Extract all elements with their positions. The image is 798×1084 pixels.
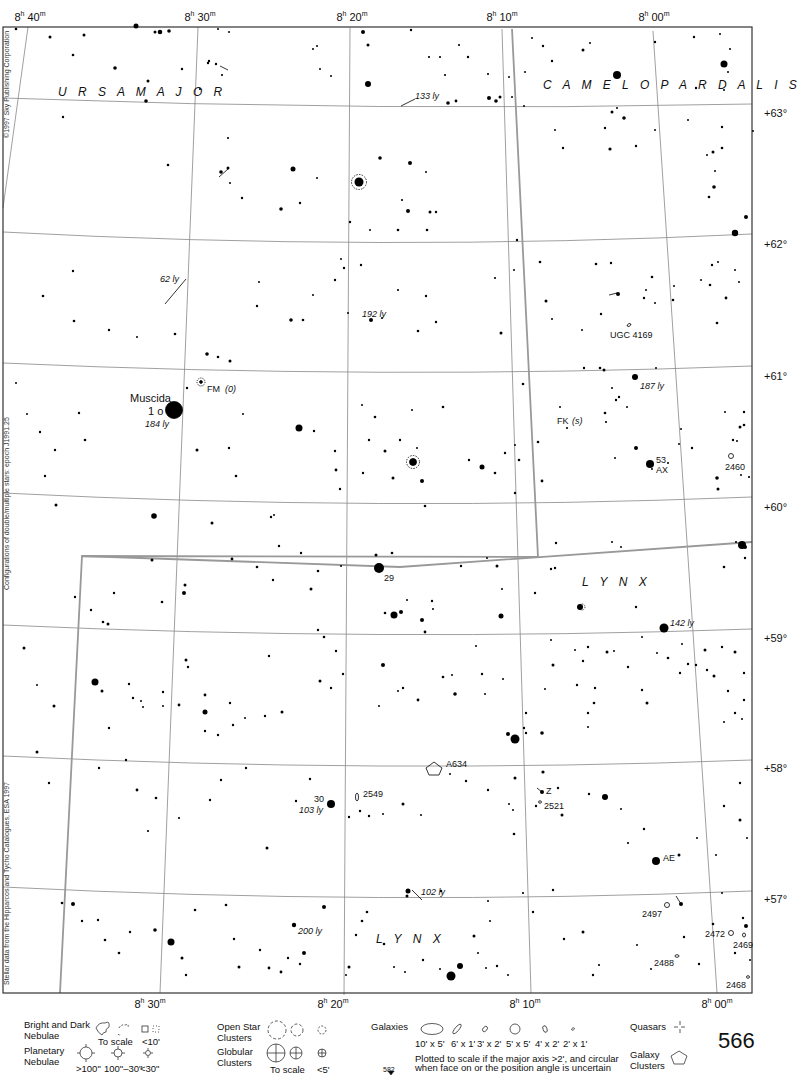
star xyxy=(709,284,712,287)
star xyxy=(654,129,656,131)
legend-planetary-size-1: >100" xyxy=(76,1063,101,1074)
star xyxy=(233,938,235,940)
star xyxy=(514,444,516,446)
star xyxy=(186,387,188,389)
star xyxy=(611,541,613,543)
star xyxy=(384,612,387,615)
star xyxy=(744,924,748,928)
star xyxy=(514,492,516,494)
legend-nebulae-title: Bright and Dark Nebulae xyxy=(24,1019,94,1041)
star xyxy=(204,730,206,732)
star xyxy=(151,559,154,562)
star xyxy=(473,935,476,938)
star xyxy=(113,66,117,70)
star xyxy=(501,588,503,590)
star xyxy=(420,814,422,816)
star xyxy=(278,545,280,547)
star xyxy=(508,803,510,805)
star xyxy=(334,450,336,452)
star xyxy=(467,56,469,58)
star xyxy=(654,41,656,43)
star xyxy=(168,939,175,946)
star xyxy=(401,199,403,201)
legend-globular-small: <5' xyxy=(317,1064,330,1075)
star xyxy=(113,592,115,594)
star xyxy=(604,412,607,415)
star xyxy=(713,675,716,678)
star xyxy=(417,330,420,333)
star xyxy=(477,952,479,954)
star xyxy=(348,966,351,969)
legend-planetary-title: Planetary Nebulae xyxy=(24,1045,74,1067)
star xyxy=(715,476,719,480)
galaxy-cluster-a634 xyxy=(426,762,442,775)
star xyxy=(309,778,311,780)
star xyxy=(740,474,742,476)
star xyxy=(496,565,499,568)
star xyxy=(507,974,509,976)
star xyxy=(446,101,450,105)
star xyxy=(83,34,86,37)
star xyxy=(78,412,80,414)
star xyxy=(209,799,211,801)
star xyxy=(714,170,716,172)
star xyxy=(735,541,737,543)
ra-label: 8h 00m xyxy=(701,997,732,1010)
star xyxy=(716,322,719,325)
star xyxy=(142,706,144,708)
star xyxy=(739,782,741,784)
star xyxy=(417,699,420,702)
legend-galaxy-size-2: 6' x 1' xyxy=(451,1038,475,1049)
star xyxy=(205,352,209,356)
star xyxy=(660,624,669,633)
star xyxy=(752,130,754,132)
star xyxy=(734,952,736,954)
star xyxy=(615,399,617,401)
star xyxy=(588,793,590,795)
star xyxy=(646,460,654,468)
star xyxy=(340,565,342,567)
object-label: A634 xyxy=(446,759,467,769)
star xyxy=(487,789,489,791)
object-label: (s) xyxy=(572,416,583,426)
ra-label: 8h 30m xyxy=(134,997,165,1010)
star xyxy=(359,810,361,812)
star xyxy=(523,105,525,107)
star xyxy=(592,974,594,976)
star xyxy=(611,387,613,389)
star xyxy=(508,76,510,78)
star xyxy=(487,96,491,100)
star xyxy=(48,782,50,784)
star xyxy=(715,854,717,856)
star xyxy=(319,68,321,70)
star xyxy=(90,609,92,611)
dec-label: +60° xyxy=(764,501,787,513)
star xyxy=(599,367,602,370)
star xyxy=(393,966,395,968)
star xyxy=(458,44,460,46)
star xyxy=(582,660,584,662)
star xyxy=(36,684,38,686)
object-label: 1 ο xyxy=(148,405,163,417)
star xyxy=(136,789,139,792)
star xyxy=(426,229,429,232)
star xyxy=(108,329,110,331)
star xyxy=(651,468,653,470)
star xyxy=(487,900,489,902)
star xyxy=(97,919,99,921)
star xyxy=(382,813,384,815)
star xyxy=(302,951,306,955)
star xyxy=(312,294,314,296)
star xyxy=(734,712,736,714)
star xyxy=(154,31,157,34)
star xyxy=(362,472,364,474)
star xyxy=(420,618,424,622)
star xyxy=(435,211,437,213)
star xyxy=(641,636,643,638)
star xyxy=(635,606,637,608)
star xyxy=(378,705,380,707)
star xyxy=(270,516,272,518)
star xyxy=(525,732,527,734)
star xyxy=(486,557,488,559)
star xyxy=(743,672,745,674)
